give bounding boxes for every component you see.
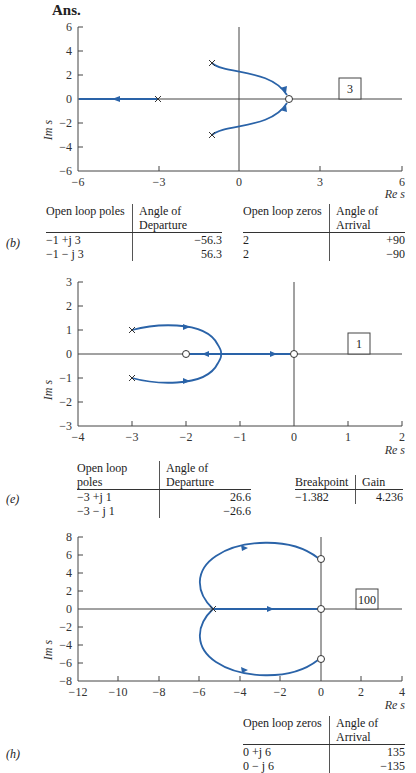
cell: −56.3 bbox=[132, 233, 222, 247]
table-h-zeros: Open loop zerosAngle of Arrival 0 +j 613… bbox=[243, 716, 405, 773]
root-locus-plot-h: 8 6 4 2 0 −2 −4 −6 −8 −12 −10 −8 −6 −4 −… bbox=[0, 520, 416, 720]
y-tick-label: 0 bbox=[66, 92, 72, 106]
x-axis-label: Re s bbox=[384, 187, 406, 201]
x-axis-label: Re s bbox=[384, 443, 406, 457]
table-e-poles: Open loop polesAngle of Departure −3 +j … bbox=[77, 461, 251, 518]
cell: 56.3 bbox=[132, 247, 222, 261]
x-tick-label: 0 bbox=[236, 175, 242, 189]
y-tick-label: 1 bbox=[66, 323, 72, 337]
table-b-zeros: Open loop zerosAngle of Arrival 2+90 2−9… bbox=[243, 204, 405, 261]
y-axis-label: Im s bbox=[41, 120, 55, 142]
x-tick-label: −3 bbox=[126, 430, 139, 444]
y-tick-label: 2 bbox=[66, 299, 72, 313]
root-locus-plot-e: 3 2 1 0 −1 −2 −3 −4 −3 −2 −1 0 1 2 Re s … bbox=[0, 265, 416, 465]
gain-box: 100 bbox=[358, 593, 376, 607]
x-tick-label: −4 bbox=[234, 685, 247, 699]
x-tick-label: −10 bbox=[109, 685, 128, 699]
cell: 26.6 bbox=[159, 490, 251, 504]
y-tick-label: −6 bbox=[59, 164, 72, 178]
x-tick-label: 0 bbox=[291, 430, 297, 444]
cell: 0 − j 6 bbox=[243, 759, 329, 773]
locus-branches bbox=[200, 543, 318, 676]
y-tick-label: −4 bbox=[59, 140, 72, 154]
x-tick-label: −2 bbox=[180, 430, 193, 444]
cell: 0 +j 6 bbox=[243, 745, 329, 759]
x-tick-label: 3 bbox=[317, 175, 323, 189]
y-tick-label: 6 bbox=[66, 548, 72, 562]
y-tick-label: 0 bbox=[66, 602, 72, 616]
x-axis-label: Re s bbox=[384, 698, 406, 712]
col-header: Open loop zeros bbox=[243, 716, 329, 744]
cell: −90 bbox=[329, 247, 405, 261]
y-tick-label: −1 bbox=[59, 371, 72, 385]
cell: −135 bbox=[329, 759, 405, 773]
y-tick-label: −4 bbox=[59, 638, 72, 652]
y-tick-label: −3 bbox=[59, 419, 72, 433]
table-e-breakpoint: BreakpointGain −1.3824.236 bbox=[295, 475, 403, 504]
y-tick-label: 4 bbox=[66, 44, 72, 58]
y-tick-label: −2 bbox=[59, 620, 72, 634]
zero-o-icon bbox=[286, 96, 293, 103]
x-tick-label: 2 bbox=[358, 685, 364, 699]
col-header: Open loop poles bbox=[46, 204, 132, 232]
zero-o-icon bbox=[183, 351, 190, 358]
zero-o-icon bbox=[318, 556, 325, 563]
col-header: Angle of Arrival bbox=[329, 716, 405, 744]
y-tick-label: 2 bbox=[66, 584, 72, 598]
col-header: Open loop zeros bbox=[243, 204, 329, 232]
x-tick-label: 1 bbox=[345, 430, 351, 444]
x-tick-label: −6 bbox=[193, 685, 206, 699]
y-tick-label: 3 bbox=[66, 275, 72, 289]
table-b-poles: Open loop polesAngle of Departure −1 +j … bbox=[46, 204, 222, 261]
cell: −1 − j 3 bbox=[46, 247, 132, 261]
zero-o-icon bbox=[318, 606, 325, 613]
y-tick-label: −2 bbox=[59, 395, 72, 409]
x-tick-label: 2 bbox=[399, 430, 405, 444]
x-tick-label: −3 bbox=[153, 175, 166, 189]
cell: −1 +j 3 bbox=[46, 233, 132, 247]
gain-box: 1 bbox=[356, 337, 362, 351]
x-tick-label: −12 bbox=[69, 685, 88, 699]
y-tick-label: 6 bbox=[66, 20, 72, 34]
y-tick-label: −6 bbox=[59, 656, 72, 670]
zero-o-icon bbox=[291, 351, 298, 358]
part-label-e: (e) bbox=[6, 492, 19, 507]
y-tick-label: 4 bbox=[66, 566, 72, 580]
cell: −3 +j 1 bbox=[77, 490, 159, 504]
cell: −3 − j 1 bbox=[77, 504, 159, 518]
col-header: Angle of Departure bbox=[159, 461, 251, 489]
cell: +90 bbox=[329, 233, 405, 247]
x-tick-label: −2 bbox=[274, 685, 287, 699]
pole-x-icon bbox=[209, 60, 215, 66]
x-tick-label: 0 bbox=[318, 685, 324, 699]
col-header: Open loop poles bbox=[77, 461, 159, 489]
x-tick-label: −8 bbox=[153, 685, 166, 699]
part-label-b: (b) bbox=[6, 236, 20, 251]
y-axis-label: Im s bbox=[41, 640, 55, 662]
cell: 2 bbox=[243, 247, 329, 261]
part-label-h: (h) bbox=[6, 747, 20, 762]
col-header: Angle of Arrival bbox=[329, 204, 405, 232]
root-locus-plot-b: 6 4 2 0 −2 −4 −6 −6 −3 0 3 6 Re s Im s 3 bbox=[0, 0, 416, 200]
zero-o-icon bbox=[318, 656, 325, 663]
col-header: Angle of Departure bbox=[132, 204, 222, 232]
x-tick-label: 4 bbox=[399, 685, 405, 699]
cell: −26.6 bbox=[159, 504, 251, 518]
y-tick-label: 0 bbox=[66, 347, 72, 361]
cell: −1.382 bbox=[295, 490, 355, 504]
y-tick-label: 2 bbox=[66, 68, 72, 82]
cell: 2 bbox=[243, 233, 329, 247]
cell: 4.236 bbox=[355, 490, 403, 504]
col-header: Breakpoint bbox=[295, 475, 355, 489]
cell: 135 bbox=[329, 745, 405, 759]
col-header: Gain bbox=[355, 475, 403, 489]
y-axis-label: Im s bbox=[41, 380, 55, 402]
y-tick-label: 8 bbox=[66, 530, 72, 544]
x-tick-label: −1 bbox=[234, 430, 247, 444]
x-tick-label: −6 bbox=[72, 175, 85, 189]
pole-x-icon bbox=[209, 132, 215, 138]
gain-box: 3 bbox=[347, 82, 353, 96]
y-tick-label: −2 bbox=[59, 116, 72, 130]
x-tick-label: −4 bbox=[72, 430, 85, 444]
